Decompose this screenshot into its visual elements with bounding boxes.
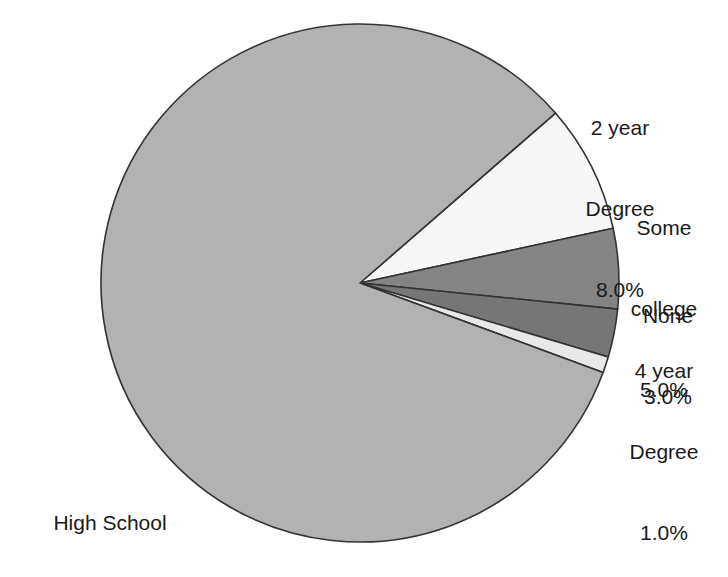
pie-chart-figure: 2 year Degree 8.0% Some college 5.0% Non… xyxy=(0,0,728,577)
slice-label-line-1: Some xyxy=(600,214,728,241)
slice-label-high-school: High School 83.0% xyxy=(10,455,210,577)
slice-label-4-year-degree: 4 year Degree 1.0% xyxy=(600,303,728,577)
slice-label-line-1: 2 year xyxy=(540,114,700,141)
slice-label-value: 1.0% xyxy=(600,519,728,546)
slice-label-line-2: Degree xyxy=(600,438,728,465)
slice-label-line-1: High School xyxy=(10,509,210,536)
slice-label-line-1: 4 year xyxy=(600,357,728,384)
